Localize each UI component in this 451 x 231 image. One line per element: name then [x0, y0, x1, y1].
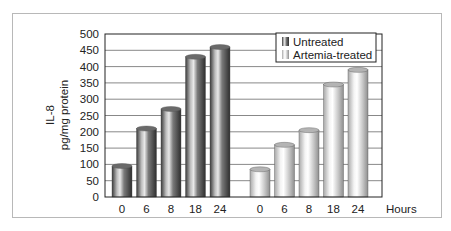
y-tick-label: 500: [80, 28, 99, 40]
x-tick-label: 6: [143, 203, 149, 215]
svg-text:Artemia-treated: Artemia-treated: [293, 49, 372, 61]
x-tick-label: 24: [214, 203, 227, 215]
svg-text:IL-8: IL-8: [44, 105, 56, 125]
y-axis-ticks: 050100150200250300350400450500: [80, 28, 99, 203]
bar: [348, 67, 368, 197]
x-tick-label: 0: [119, 203, 125, 215]
y-tick-label: 350: [80, 77, 99, 89]
x-tick-label: 8: [168, 203, 174, 215]
bar: [112, 164, 132, 197]
x-axis-label: Hours: [386, 203, 417, 215]
legend-swatch-artemia-treated: [282, 50, 289, 59]
bar: [186, 54, 206, 197]
y-tick-label: 300: [80, 93, 99, 105]
y-axis-label: IL-8 pg/mg protein: [44, 80, 70, 150]
legend: Untreated Artemia-treated: [276, 33, 376, 62]
bar: [250, 167, 270, 197]
y-tick-label: 150: [80, 142, 99, 154]
bar: [210, 45, 230, 197]
bar-chart: 050100150200250300350400450500 068182406…: [0, 0, 451, 231]
bar: [275, 142, 295, 197]
legend-swatch-untreated: [282, 37, 289, 46]
x-axis-ticks: 06818240681824: [119, 203, 365, 215]
y-tick-label: 400: [80, 61, 99, 73]
y-tick-label: 250: [80, 110, 99, 122]
svg-text:pg/mg protein: pg/mg protein: [58, 80, 70, 150]
y-tick-label: 450: [80, 44, 99, 56]
x-tick-label: 8: [306, 203, 312, 215]
x-tick-label: 18: [327, 203, 340, 215]
y-tick-label: 200: [80, 126, 99, 138]
bar: [137, 126, 157, 197]
y-tick-label: 50: [86, 175, 99, 187]
legend-item-artemia-treated: Artemia-treated: [282, 49, 372, 61]
bar: [324, 82, 344, 197]
x-tick-label: 18: [189, 203, 202, 215]
x-tick-label: 6: [281, 203, 287, 215]
x-tick-label: 24: [352, 203, 365, 215]
x-tick-label: 0: [257, 203, 263, 215]
bar: [161, 106, 181, 197]
svg-text:Untreated: Untreated: [293, 36, 344, 48]
bars: [112, 45, 368, 197]
bar: [299, 128, 319, 197]
y-tick-label: 0: [93, 191, 99, 203]
y-tick-label: 100: [80, 158, 99, 170]
